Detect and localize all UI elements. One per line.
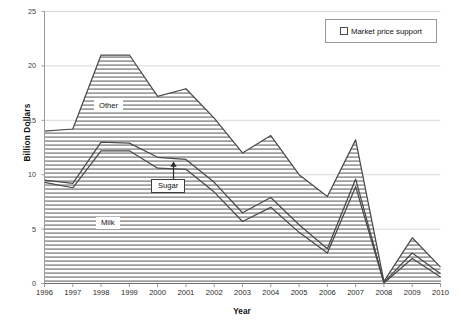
y-tick-label: 15 [12,116,36,125]
market-price-support-chart: Billion Dollars Year 2520151050 19961997… [0,0,461,327]
y-tick-label: 5 [12,225,36,234]
area-label-other: Other [94,100,123,112]
square-outline-icon [340,27,348,35]
x-tick-label: 2010 [424,288,458,297]
chart-legend: Market price support [325,19,437,43]
stacked-areas [45,55,441,283]
y-tick-label: 25 [12,7,36,16]
y-tick-label: 20 [12,61,36,70]
y-tick-label: 10 [12,170,36,179]
area-label-milk: Milk [96,217,120,229]
x-axis-title: Year [44,307,440,316]
legend-item-label: Market price support [351,27,422,36]
chart-plot-svg [0,0,461,327]
area-label-sugar: Sugar [151,179,185,193]
y-tick-label: 0 [12,279,36,288]
